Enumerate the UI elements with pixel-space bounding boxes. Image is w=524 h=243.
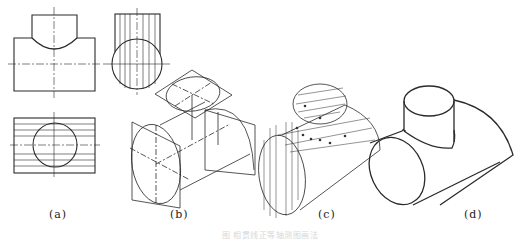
panel-label-b: (b) [170, 208, 189, 221]
finished-isometric-d [359, 86, 513, 214]
figure-caption: 图 相贯线正等轴测图画法 [200, 229, 340, 240]
panel-label-a: (a) [49, 208, 67, 221]
isometric-construction-b [125, 70, 255, 208]
front-view-a [8, 7, 100, 98]
side-view-a [103, 8, 170, 95]
panel-label-c: (c) [318, 208, 336, 221]
intersection-points-c [254, 84, 380, 218]
technical-drawing [0, 0, 524, 243]
panel-label-d: (d) [464, 208, 483, 221]
top-view-a [10, 112, 100, 177]
